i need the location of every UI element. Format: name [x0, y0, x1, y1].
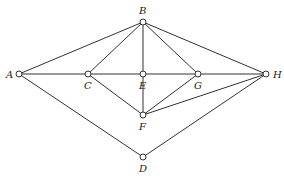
edge-c-f: [88, 74, 143, 115]
node-e: [140, 71, 146, 77]
node-label-f: F: [138, 121, 147, 132]
node-label-h: H: [272, 69, 282, 80]
node-label-d: D: [138, 163, 147, 174]
edge-a-b: [19, 22, 143, 74]
edge-a-d: [19, 74, 143, 157]
edge-b-h: [143, 22, 266, 74]
node-label-b: B: [138, 5, 146, 16]
edge-g-f: [143, 74, 198, 115]
node-c: [85, 71, 91, 77]
node-g: [195, 71, 201, 77]
edge-b-g: [143, 22, 198, 74]
edge-h-d: [143, 74, 266, 157]
node-label-e: E: [138, 80, 147, 91]
graph-diagram: ABCEGHFD: [0, 0, 284, 178]
node-d: [140, 154, 146, 160]
node-h: [263, 71, 269, 77]
node-f: [140, 112, 146, 118]
edge-h-f: [143, 74, 266, 115]
node-label-c: C: [84, 80, 92, 91]
graph-svg: ABCEGHFD: [0, 0, 284, 178]
node-label-g: G: [194, 80, 202, 91]
node-a: [16, 71, 22, 77]
node-label-a: A: [5, 69, 13, 80]
node-b: [140, 19, 146, 25]
edge-b-c: [88, 22, 143, 74]
